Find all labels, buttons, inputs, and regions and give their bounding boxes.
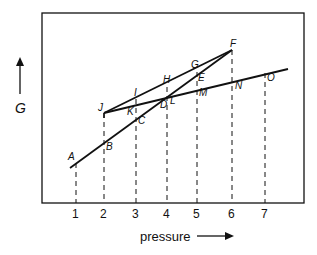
label-b: B: [106, 141, 113, 152]
label-l: L: [170, 95, 176, 106]
svg-text:7: 7: [261, 207, 268, 221]
label-g: G: [191, 59, 199, 70]
svg-text:6: 6: [228, 207, 235, 221]
x-arrow-icon: [197, 232, 234, 240]
x-axis-title: pressure: [140, 229, 191, 244]
label-a: A: [67, 151, 75, 162]
gibbs-pressure-diagram: A B C D E F G H I J K L M N O 1 2 3 4 5 …: [0, 0, 317, 255]
label-f: F: [230, 38, 237, 49]
label-m: M: [199, 87, 208, 98]
label-d: D: [160, 99, 167, 110]
label-e: E: [198, 72, 205, 83]
line-abcdef: [70, 50, 232, 168]
svg-text:3: 3: [132, 207, 139, 221]
svg-text:1: 1: [72, 207, 79, 221]
label-o: O: [267, 72, 275, 83]
dashed-guides: [76, 50, 265, 203]
label-h: H: [163, 74, 171, 85]
y-arrow-icon: [16, 57, 24, 94]
svg-text:4: 4: [163, 207, 170, 221]
x-tick-labels: 1 2 3 4 5 6 7: [72, 207, 268, 221]
svg-text:5: 5: [193, 207, 200, 221]
label-c: C: [138, 115, 146, 126]
y-axis-title: G: [15, 100, 26, 116]
label-j: J: [97, 102, 104, 113]
label-k: K: [127, 106, 135, 117]
label-i: I: [134, 87, 137, 98]
label-n: N: [235, 80, 243, 91]
svg-text:2: 2: [100, 207, 107, 221]
